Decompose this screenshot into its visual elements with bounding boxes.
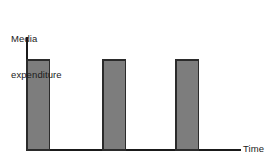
- bar-burst-2: [103, 60, 126, 150]
- bar-burst-3: [176, 60, 199, 150]
- y-axis-label-line-1: Media: [11, 33, 62, 45]
- y-axis-label-line-2: expenditure: [11, 69, 62, 81]
- media-expenditure-chart: Media expenditure Time: [0, 0, 274, 166]
- x-axis-label: Time: [243, 143, 264, 155]
- y-axis-label: Media expenditure: [11, 9, 62, 105]
